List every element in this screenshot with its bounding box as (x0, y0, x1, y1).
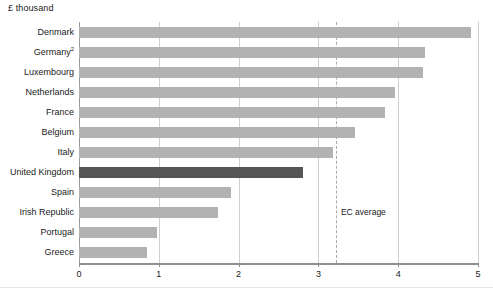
bar-portugal (79, 227, 157, 238)
x-tick-label-3: 3 (308, 269, 328, 279)
bars-layer (79, 22, 478, 263)
bar-row (79, 187, 478, 198)
bar-netherlands (79, 87, 395, 98)
bar-denmark (79, 27, 471, 38)
x-tick-label-5: 5 (468, 269, 488, 279)
bar-row (79, 127, 478, 138)
bar-row (79, 87, 478, 98)
bar-germany (79, 47, 425, 58)
bar-belgium (79, 127, 355, 138)
bar-luxembourg (79, 67, 423, 78)
bar-united-kingdom (79, 167, 303, 178)
category-axis-labels: DenmarkGermany2LuxembourgNetherlandsFran… (0, 22, 74, 263)
bar-row (79, 227, 478, 238)
category-label-italy: Italy (0, 147, 74, 158)
bar-france (79, 107, 385, 118)
category-label-netherlands: Netherlands (0, 87, 74, 98)
x-axis-line (79, 263, 478, 265)
bar-row (79, 247, 478, 258)
category-label-germany: Germany2 (0, 47, 74, 58)
category-label-luxembourg: Luxembourg (0, 67, 74, 78)
category-label-irish-republic: Irish Republic (0, 207, 74, 218)
x-tick-4 (398, 263, 399, 267)
bar-italy (79, 147, 333, 158)
category-label-belgium: Belgium (0, 127, 74, 138)
x-tick-0 (79, 263, 80, 267)
x-tick-label-4: 4 (388, 269, 408, 279)
plot-area: EC average (79, 22, 478, 263)
x-tick-1 (159, 263, 160, 267)
bar-row (79, 107, 478, 118)
category-label-denmark: Denmark (0, 27, 74, 38)
gridline-5 (478, 22, 479, 263)
bar-spain (79, 187, 231, 198)
bar-irish-republic (79, 207, 218, 218)
category-label-portugal: Portugal (0, 227, 74, 238)
bar-chart: £ thousand DenmarkGermany2LuxembourgNeth… (0, 0, 493, 289)
bar-row (79, 47, 478, 58)
x-tick-label-2: 2 (229, 269, 249, 279)
bar-row (79, 207, 478, 218)
category-label-united-kingdom: United Kingdom (0, 167, 74, 178)
category-label-france: France (0, 107, 74, 118)
bar-row (79, 147, 478, 158)
unit-label: £ thousand (8, 3, 54, 13)
bar-row (79, 27, 478, 38)
x-tick-label-1: 1 (149, 269, 169, 279)
bar-row (79, 167, 478, 178)
bar-row (79, 67, 478, 78)
category-label-spain: Spain (0, 187, 74, 198)
bottom-divider (0, 287, 493, 288)
x-tick-5 (478, 263, 479, 267)
bar-greece (79, 247, 147, 258)
x-tick-3 (318, 263, 319, 267)
x-tick-label-0: 0 (69, 269, 89, 279)
category-label-greece: Greece (0, 247, 74, 258)
x-tick-2 (239, 263, 240, 267)
footnote-marker: 2 (71, 46, 74, 52)
